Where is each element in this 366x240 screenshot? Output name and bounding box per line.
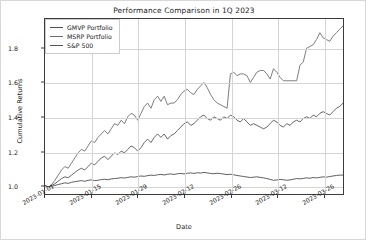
y-tick-mark (41, 47, 44, 48)
legend-item-label: MSRP Portfolio (67, 33, 112, 40)
series-line (45, 103, 343, 187)
y-axis-label: Cumulative Returns (16, 46, 24, 176)
legend-color-swatch (50, 45, 63, 46)
legend-item[interactable]: S&P 500 (50, 41, 113, 50)
y-tick-label: 1.8 (0, 44, 18, 51)
legend-item-label: GMVP Portfolio (67, 24, 113, 31)
gridline-horizontal (45, 153, 343, 154)
y-tick-label: 1.2 (0, 148, 18, 155)
chart-figure: Performance Comparison in 1Q 2023 Cumula… (0, 0, 366, 240)
x-tick-mark (44, 195, 45, 198)
gridline-horizontal (45, 118, 343, 119)
x-tick-mark (137, 195, 138, 198)
chart-title: Performance Comparison in 1Q 2023 (1, 6, 366, 15)
y-tick-mark (41, 82, 44, 83)
x-tick-mark (91, 195, 92, 198)
gridline-vertical (325, 19, 326, 194)
gridline-vertical (278, 19, 279, 194)
y-tick-label: 1.0 (0, 183, 18, 190)
legend-item-label: S&P 500 (67, 42, 93, 49)
legend-color-swatch (50, 36, 63, 37)
x-tick-mark (277, 195, 278, 198)
y-tick-mark (41, 116, 44, 117)
gridline-horizontal (45, 83, 343, 84)
y-tick-label: 1.4 (0, 113, 18, 120)
gridline-vertical (232, 19, 233, 194)
x-tick-mark (231, 195, 232, 198)
gridline-vertical (185, 19, 186, 194)
y-tick-mark (41, 151, 44, 152)
chart-legend: GMVP PortfolioMSRP PortfolioS&P 500 (45, 19, 120, 54)
x-axis-label: Date (1, 223, 366, 231)
y-tick-label: 1.6 (0, 79, 18, 86)
legend-item[interactable]: GMVP Portfolio (50, 23, 113, 32)
x-tick-mark (324, 195, 325, 198)
legend-color-swatch (50, 27, 63, 28)
series-line (45, 172, 343, 187)
legend-item[interactable]: MSRP Portfolio (50, 32, 113, 41)
x-tick-mark (184, 195, 185, 198)
gridline-vertical (138, 19, 139, 194)
